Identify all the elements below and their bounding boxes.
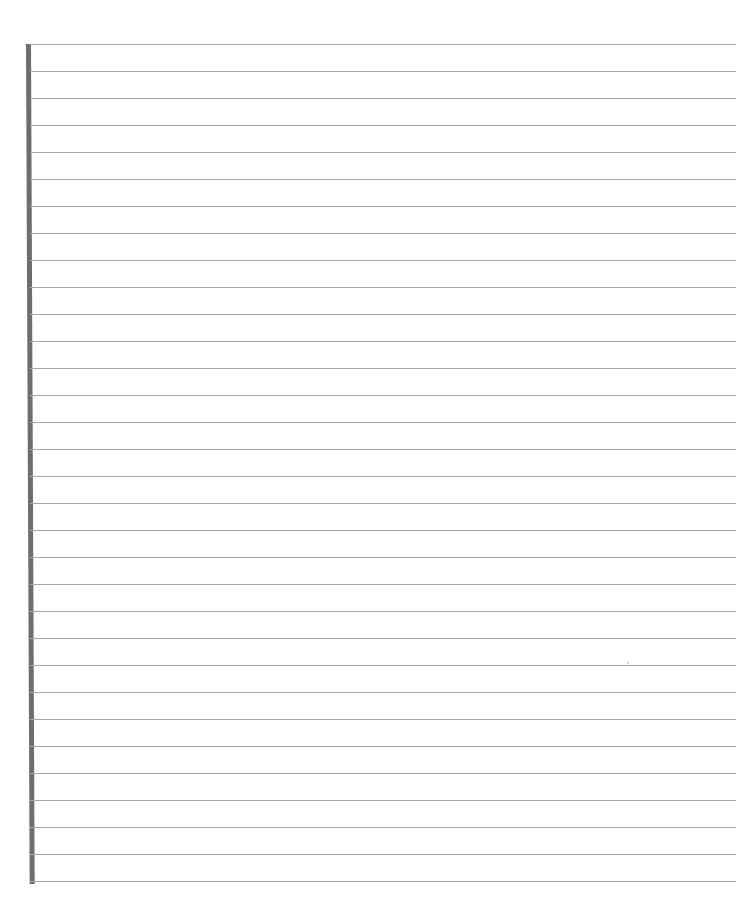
ruled-line: [30, 260, 736, 261]
ruled-line: [30, 341, 736, 342]
ruled-line: [30, 557, 736, 558]
ruled-line: [30, 881, 736, 882]
ruled-line: [30, 395, 736, 396]
ruled-line: [30, 665, 736, 666]
ruled-line: [30, 233, 736, 234]
ruled-line: [30, 98, 736, 99]
ruled-line: [30, 719, 736, 720]
ruled-line: [30, 854, 736, 855]
lined-paper-sheet: [0, 0, 740, 911]
ruled-line: [30, 476, 736, 477]
ruled-line: [30, 422, 736, 423]
ruled-line: [30, 314, 736, 315]
ruled-line: [30, 206, 736, 207]
ruled-line: [30, 773, 736, 774]
ruled-line: [30, 368, 736, 369]
ruled-line: [30, 449, 736, 450]
ruled-line: [30, 125, 736, 126]
ruled-line: [30, 503, 736, 504]
ruled-line: [30, 152, 736, 153]
left-margin-bar: [26, 44, 35, 884]
ruled-line: [30, 44, 736, 45]
ruled-line: [30, 584, 736, 585]
ruled-line: [30, 530, 736, 531]
ruled-line: [30, 800, 736, 801]
ruled-line: [30, 746, 736, 747]
ruled-line: [30, 179, 736, 180]
paper-speck: [627, 662, 629, 664]
ruled-line: [30, 692, 736, 693]
ruled-line: [30, 827, 736, 828]
ruled-line: [30, 638, 736, 639]
ruled-line: [30, 287, 736, 288]
ruled-line: [30, 611, 736, 612]
ruled-line: [30, 71, 736, 72]
